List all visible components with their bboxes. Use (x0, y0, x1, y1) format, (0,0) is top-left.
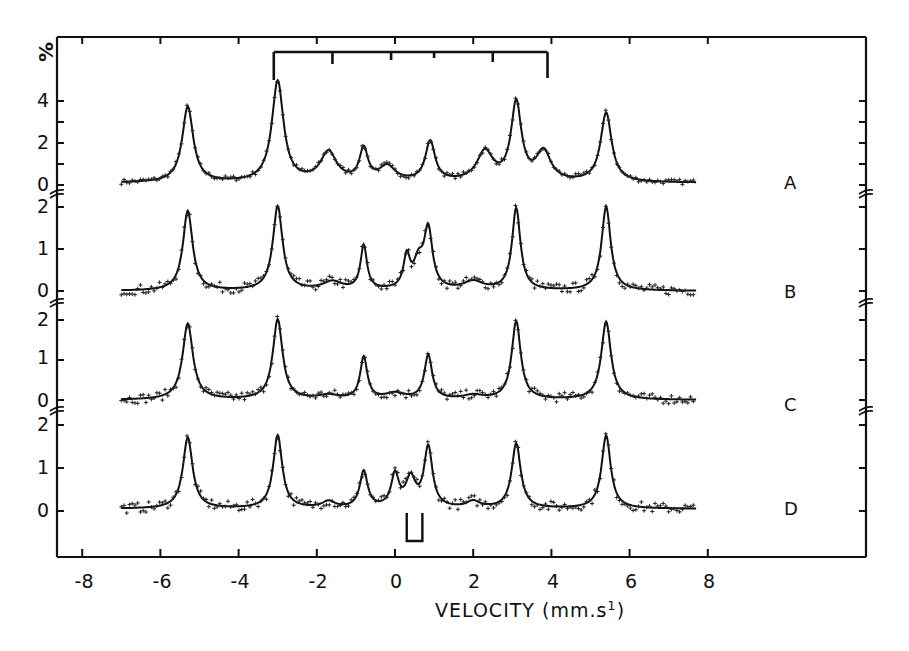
series-label-D: D (784, 498, 798, 519)
x-label--8: -8 (75, 570, 94, 592)
x-label-8: 8 (703, 570, 715, 592)
x-label-0: 0 (390, 570, 402, 592)
series-label-B: B (784, 281, 796, 302)
y-label-B-0: 0 (37, 279, 49, 301)
x-label--4: -4 (231, 570, 250, 592)
y-label-A-0: 0 (37, 173, 49, 195)
y-label-A-4: 4 (37, 89, 49, 111)
y-label-A-2: 2 (37, 131, 49, 153)
doublet-marker (407, 513, 423, 541)
x-label-6: 6 (625, 570, 637, 592)
y-label-D-2: 2 (37, 413, 49, 435)
y-axis-unit-label: % (34, 42, 58, 62)
x-label-4: 4 (547, 570, 559, 592)
x-label--2: -2 (309, 570, 328, 592)
y-axis-ticks (57, 101, 866, 511)
y-label-B-1: 1 (37, 237, 49, 259)
x-axis-title-close: ) (617, 599, 625, 621)
x-axis-title-exponent: 1 (607, 598, 616, 613)
x-label-2: 2 (468, 570, 480, 592)
x-axis-title-text: VELOCITY (mm.s (435, 599, 607, 621)
x-axis-title: VELOCITY (mm.s‾1) (435, 598, 625, 621)
series-label-C: C (784, 394, 797, 415)
spectra-curves (121, 80, 696, 508)
y-label-D-0: 0 (37, 499, 49, 521)
sextet-stick-diagram (274, 52, 548, 80)
y-label-B-2: 2 (37, 195, 49, 217)
y-label-C-0: 0 (37, 389, 49, 411)
y-label-C-1: 1 (37, 346, 49, 368)
y-label-C-2: 2 (37, 308, 49, 330)
axis-break-marks (50, 190, 873, 415)
x-label--6: -6 (153, 570, 172, 592)
y-label-D-1: 1 (37, 456, 49, 478)
mossbauer-spectra-figure (0, 0, 909, 651)
series-label-A: A (784, 172, 796, 193)
plot-frame (57, 37, 866, 557)
